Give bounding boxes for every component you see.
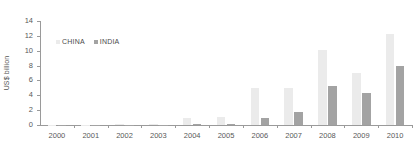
bar — [318, 50, 327, 125]
x-tick-mark — [209, 125, 210, 128]
x-tick-mark — [311, 125, 312, 128]
chart-legend: CHINAINDIA — [56, 38, 119, 45]
y-tick-label: 10 — [25, 46, 33, 55]
x-tick-label: 2010 — [375, 131, 415, 140]
bar — [386, 34, 395, 125]
x-tick-mark — [378, 125, 379, 128]
y-tick-label: 4 — [29, 90, 33, 99]
y-axis-title: US$ billion — [2, 21, 12, 125]
y-tick-label: 8 — [29, 61, 33, 70]
y-tick-mark — [37, 125, 40, 126]
bar — [193, 124, 202, 125]
legend-item: INDIA — [94, 38, 120, 45]
bar — [284, 88, 293, 125]
bar-chart: US$ billion 14121086420 2000200120022003… — [0, 0, 418, 150]
legend-item: CHINA — [56, 38, 85, 45]
bar — [362, 93, 371, 125]
legend-label: CHINA — [62, 38, 85, 45]
bar — [352, 73, 361, 125]
y-tick-label: 14 — [25, 16, 33, 25]
bar — [294, 112, 303, 125]
legend-swatch — [56, 40, 60, 44]
x-tick-mark — [243, 125, 244, 128]
bar — [149, 124, 158, 125]
bar — [261, 118, 270, 125]
bar — [396, 66, 405, 125]
bar — [328, 86, 337, 125]
x-tick-mark — [175, 125, 176, 128]
y-tick-label: 6 — [29, 75, 33, 84]
plot-area — [40, 21, 412, 125]
x-tick-mark — [108, 125, 109, 128]
x-tick-mark — [344, 125, 345, 128]
x-tick-mark — [277, 125, 278, 128]
bar — [115, 124, 124, 125]
bar — [227, 124, 236, 125]
y-tick-label: 0 — [29, 120, 33, 129]
y-tick-label: 2 — [29, 105, 33, 114]
x-tick-mark — [141, 125, 142, 128]
legend-swatch — [94, 40, 98, 44]
x-tick-mark — [412, 125, 413, 128]
bar — [251, 88, 260, 125]
bar — [183, 118, 192, 125]
legend-label: INDIA — [100, 38, 120, 45]
x-tick-mark — [74, 125, 75, 128]
bar — [217, 117, 226, 125]
y-tick-label: 12 — [25, 31, 33, 40]
